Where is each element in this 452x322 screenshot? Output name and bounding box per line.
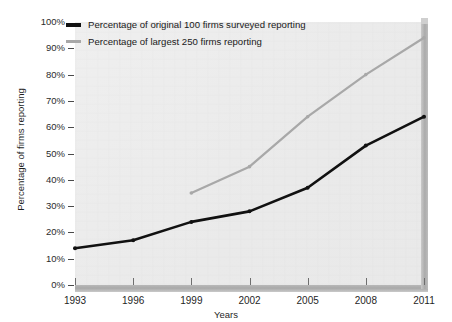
legend-label-primary: Percentage of original 100 firms surveye… bbox=[88, 19, 306, 30]
x-axis-title: Years bbox=[0, 309, 452, 320]
data-point-largest-250-2011 bbox=[422, 36, 426, 40]
legend-swatch-primary bbox=[66, 23, 81, 27]
legend-label-secondary: Percentage of largest 250 firms reportin… bbox=[88, 36, 262, 47]
data-point-original-100-2008 bbox=[364, 144, 368, 148]
legend-item-original-100[interactable]: Percentage of original 100 firms surveye… bbox=[66, 18, 306, 31]
data-point-largest-250-2008 bbox=[364, 73, 368, 77]
data-point-original-100-1993 bbox=[73, 246, 77, 250]
data-point-original-100-1996 bbox=[131, 238, 135, 242]
legend: Percentage of original 100 firms surveye… bbox=[66, 18, 306, 48]
data-point-largest-250-2002 bbox=[248, 165, 252, 169]
data-point-original-100-1999 bbox=[189, 220, 193, 224]
y-axis-title: Percentage of firms reporting bbox=[15, 50, 26, 250]
data-point-original-100-2005 bbox=[306, 186, 310, 190]
chart-container: 0%10%20%30%40%50%60%70%80%90%100% 199319… bbox=[0, 0, 452, 322]
data-series-layer bbox=[0, 0, 452, 322]
data-point-original-100-2011 bbox=[422, 115, 426, 119]
legend-swatch-secondary bbox=[66, 40, 81, 44]
data-point-original-100-2002 bbox=[248, 209, 252, 213]
legend-item-largest-250[interactable]: Percentage of largest 250 firms reportin… bbox=[66, 35, 306, 48]
data-point-largest-250-1999 bbox=[190, 191, 194, 195]
data-point-largest-250-2005 bbox=[306, 115, 310, 119]
series-line-original-100 bbox=[75, 117, 424, 249]
